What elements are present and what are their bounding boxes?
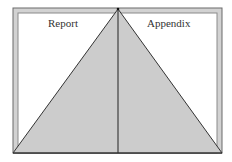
label-appendix: Appendix [147,17,191,29]
diagram-canvas: Report Appendix [0,0,232,162]
apex-point [117,8,120,11]
label-report: Report [48,17,78,29]
